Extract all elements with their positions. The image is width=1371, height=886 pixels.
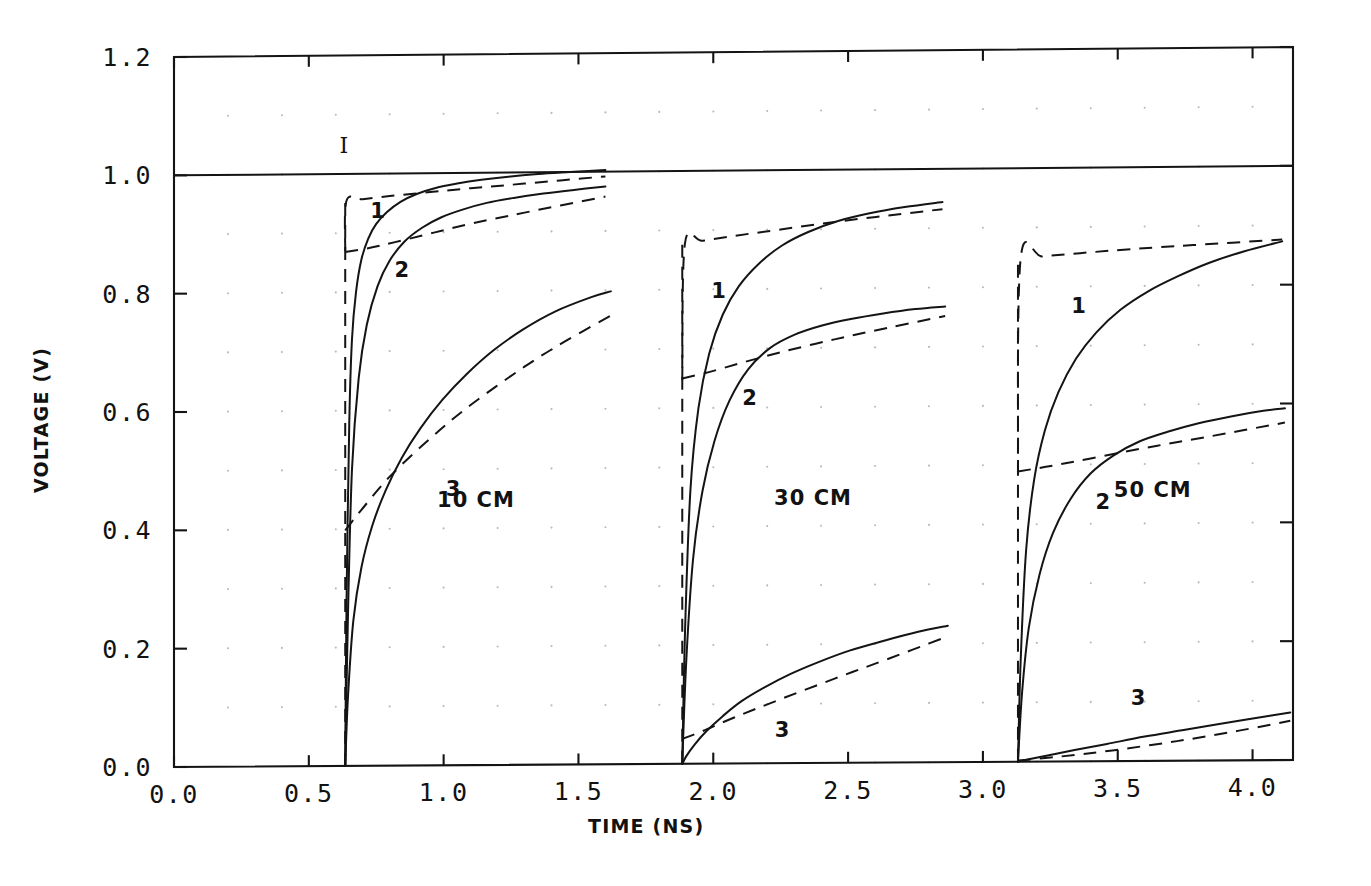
x-axis-title: TIME (NS) [588, 815, 704, 837]
curve-number-label: 1 [711, 279, 726, 303]
x-tick-label: 4.0 [1228, 773, 1278, 802]
x-tick-label: 1.5 [554, 777, 604, 806]
x-tick-label: 3.0 [958, 775, 1008, 804]
curve-number-label: 3 [446, 477, 461, 501]
x-tick-label: 0.0 [149, 780, 199, 809]
y-tick-label: 0.4 [102, 516, 152, 545]
ideal-line-label: I [340, 133, 349, 158]
x-tick-label: 2.5 [823, 776, 873, 805]
curve-number-label: 3 [1131, 686, 1146, 710]
y-tick-label: 0.6 [102, 398, 152, 427]
voltage-vs-time-plot: 0.00.51.01.52.02.53.03.54.0 0.00.20.40.6… [0, 0, 1371, 886]
y-axis-title: VOLTAGE (V) [30, 347, 52, 493]
y-tick-label: 0.8 [102, 280, 152, 309]
curve-number-label: 1 [370, 199, 385, 223]
x-tick-label: 3.5 [1093, 774, 1143, 803]
curve-number-label: 2 [742, 386, 757, 410]
y-tick-label: 0.0 [102, 753, 152, 782]
curve-number-label: 1 [1071, 294, 1086, 318]
canvas-background [0, 0, 1371, 886]
x-tick-label: 0.5 [284, 779, 334, 808]
x-tick-label: 2.0 [688, 777, 738, 806]
group-label-30-cm: 30 CM [774, 486, 852, 510]
y-tick-label: 1.0 [102, 161, 152, 190]
x-tick-label: 1.0 [419, 778, 469, 807]
curve-number-label: 2 [1096, 490, 1111, 514]
chart-figure: 0.00.51.01.52.02.53.03.54.0 0.00.20.40.6… [0, 0, 1371, 886]
curve-number-label: 3 [775, 718, 790, 742]
y-tick-label: 1.2 [102, 43, 152, 72]
curve-number-label: 2 [395, 258, 410, 282]
group-label-50-cm: 50 CM [1114, 478, 1192, 502]
y-tick-label: 0.2 [102, 635, 152, 664]
